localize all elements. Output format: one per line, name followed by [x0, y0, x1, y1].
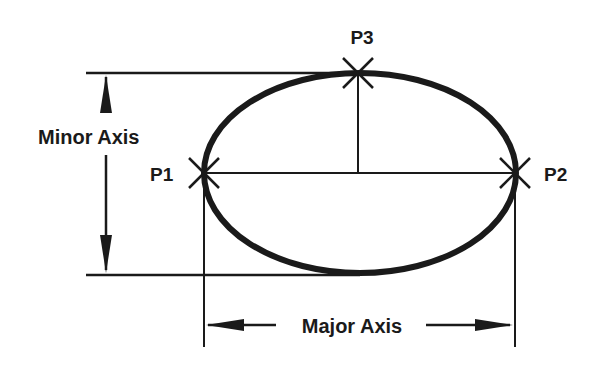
minor-axis-up-arrowhead	[100, 75, 112, 113]
minor-axis-label: Minor Axis	[38, 126, 140, 148]
major-axis-right-arrowhead	[475, 319, 513, 331]
major-axis-label: Major Axis	[302, 315, 402, 337]
p3-label: P3	[350, 27, 373, 48]
ellipse-diagram: P3 P1 P2 Minor Axis Major Axis	[0, 0, 606, 378]
minor-axis-down-arrowhead	[100, 235, 112, 273]
p1-label: P1	[150, 164, 174, 185]
major-axis-left-arrowhead	[206, 319, 244, 331]
p2-label: P2	[544, 164, 567, 185]
